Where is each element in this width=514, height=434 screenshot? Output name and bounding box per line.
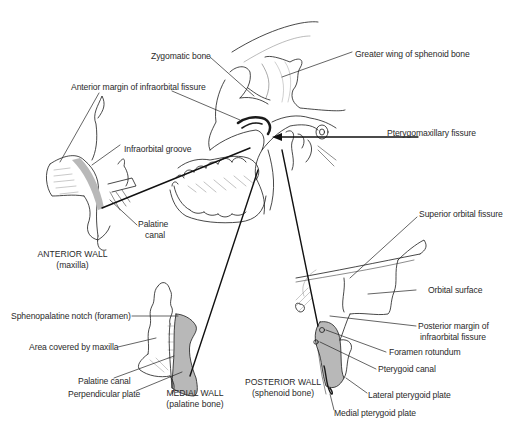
anterior-wall-illustration xyxy=(46,96,136,250)
caption-medial-wall-title: MEDIAL WALL xyxy=(155,388,235,399)
label-pterygomaxillary-fissure: Pterygomaxillary fissure xyxy=(387,128,476,138)
label-palatine-canal-anterior-line2: canal xyxy=(145,230,165,240)
caption-posterior-wall-title: POSTERIOR WALL xyxy=(238,377,328,388)
connector-lines xyxy=(102,137,418,376)
label-anterior-margin: Anterior margin of infraorbital fissure xyxy=(71,82,206,92)
label-foramen-rotundum: Foramen rotundum xyxy=(389,347,460,357)
caption-medial-wall: MEDIAL WALL (palatine bone) xyxy=(155,388,235,410)
label-lateral-pterygoid-plate: Lateral pterygoid plate xyxy=(368,390,451,400)
label-palatine-canal-anterior-line1: Palatine xyxy=(138,219,168,229)
label-zygomatic-bone: Zygomatic bone xyxy=(151,51,211,61)
label-posterior-margin-line1: Posterior margin of xyxy=(418,321,489,331)
label-infraorbital-groove: Infraorbital groove xyxy=(124,144,191,154)
label-pterygoid-canal: Pterygoid canal xyxy=(378,364,436,374)
medial-wall-illustration xyxy=(138,283,197,396)
label-superior-orbital-fissure: Superior orbital fissure xyxy=(419,209,503,219)
label-greater-wing: Greater wing of sphenoid bone xyxy=(355,49,470,59)
caption-anterior-wall: ANTERIOR WALL (maxilla) xyxy=(30,249,115,271)
caption-anterior-wall-title: ANTERIOR WALL xyxy=(30,249,115,260)
label-area-covered-by-maxilla: Area covered by maxilla xyxy=(29,342,118,352)
label-posterior-margin-line2: infraorbital fissure xyxy=(420,332,486,342)
label-orbital-surface: Orbital surface xyxy=(428,285,482,295)
caption-medial-wall-subtitle: (palatine bone) xyxy=(155,399,235,410)
caption-anterior-wall-subtitle: (maxilla) xyxy=(30,260,115,271)
label-medial-pterygoid-plate: Medial pterygoid plate xyxy=(334,408,416,418)
label-perpendicular-plate: Perpendicular plate xyxy=(68,389,140,399)
diagram-canvas: Zygomatic bone Greater wing of sphenoid … xyxy=(0,0,514,434)
caption-posterior-wall: POSTERIOR WALL (sphenoid bone) xyxy=(238,377,328,399)
label-sphenopalatine-notch: Sphenopalatine notch (foramen) xyxy=(11,311,131,321)
caption-posterior-wall-subtitle: (sphenoid bone) xyxy=(238,388,328,399)
label-palatine-canal-medial: Palatine canal xyxy=(78,376,131,386)
